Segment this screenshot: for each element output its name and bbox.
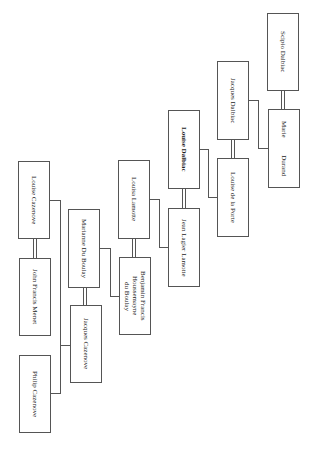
person-name: Benjamin Francis Houssemayne du Boulay <box>123 271 147 321</box>
descent-line <box>208 197 217 198</box>
descent-line <box>258 148 268 149</box>
person-louisa-lamotte: Louisa Lamotte <box>118 160 150 239</box>
person-name: Philip Cazenove <box>31 371 39 417</box>
marriage-link-louisa-benjamin <box>132 238 136 257</box>
marriage-link-marianne-jacques <box>83 287 87 305</box>
person-louise-cazenove: Louise Cazenove <box>18 161 50 239</box>
person-name: Marie Durand <box>280 121 288 176</box>
person-jean-lagier-lamotte: Jean Lagier Lamotte <box>168 208 200 287</box>
marriage-link-louise-jean <box>182 188 186 208</box>
person-name: Jean Lagier Lamotte <box>180 219 188 277</box>
person-louise-dalbiac: Louise Dalbiac <box>168 110 200 189</box>
person-jacques-dalbiac: Jacques Dalbiac <box>217 61 249 140</box>
descent-line <box>110 248 111 296</box>
descent-line <box>208 149 209 197</box>
person-scipio-dalbiac: Scipio Dalbiac <box>267 13 299 91</box>
person-benjamin-du-boulay: Benjamin Francis Houssemayne du Boulay <box>119 257 151 335</box>
marriage-link-scipio-marie <box>281 90 285 109</box>
descent-line <box>50 200 60 201</box>
descent-line <box>249 100 258 101</box>
descent-line <box>159 247 168 248</box>
person-louise-de-la-porte: Louise de la Porte <box>217 158 249 237</box>
descent-line <box>150 199 159 200</box>
marriage-link-jacques-louise <box>231 139 235 158</box>
person-name: John Francis Menet <box>31 269 39 324</box>
person-name: Louisa Lamotte <box>130 177 138 221</box>
person-name: Marianne Du Boulay <box>80 219 88 278</box>
descent-line <box>100 248 110 249</box>
person-name: Scipio Dalbiac <box>279 31 287 72</box>
person-john-francis-menet: John Francis Menet <box>19 258 51 336</box>
descent-line <box>110 296 119 297</box>
descent-line <box>159 199 160 247</box>
person-jacques-cazenove: Jacques Cazenove <box>70 305 102 383</box>
descent-line <box>51 393 61 394</box>
person-name: Jacques Cazenove <box>82 318 90 369</box>
person-philip-cazenove: Philip Cazenove <box>19 355 51 433</box>
descent-line <box>60 200 61 394</box>
person-marie-durand: Marie Durand <box>268 109 300 188</box>
marriage-link-louise-john <box>33 239 37 258</box>
descent-line <box>60 345 70 346</box>
person-marianne-du-boulay: Marianne Du Boulay <box>68 209 100 288</box>
family-tree-diagram: Scipio Dalbiac Marie Durand Jacques Dalb… <box>0 0 317 461</box>
person-name: Louise de la Porte <box>229 172 237 223</box>
descent-line <box>258 100 259 148</box>
person-name: Jacques Dalbiac <box>229 78 237 123</box>
person-name: Louise Dalbiac <box>180 127 188 172</box>
person-name: Louise Cazenove <box>30 176 38 224</box>
